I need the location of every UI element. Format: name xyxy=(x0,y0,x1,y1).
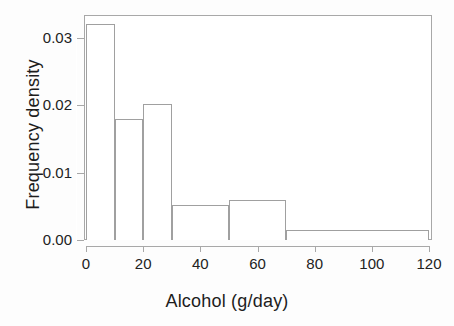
x-tick-label: 20 xyxy=(118,255,168,272)
x-tick xyxy=(429,246,430,252)
y-tick xyxy=(77,173,84,174)
histogram-bar xyxy=(143,104,172,240)
x-axis-title: Alcohol (g/day) xyxy=(0,291,454,312)
x-tick xyxy=(372,246,373,252)
x-tick xyxy=(200,246,201,252)
y-tick-label: 0.00 xyxy=(43,232,72,247)
histogram-bar xyxy=(115,119,144,241)
histogram-bar xyxy=(172,205,229,240)
y-axis-line xyxy=(76,38,77,241)
y-tick xyxy=(77,38,84,39)
y-tick-label: 0.02 xyxy=(43,97,72,112)
x-tick xyxy=(86,246,87,252)
y-tick-label: 0.03 xyxy=(43,30,72,45)
histogram-bar xyxy=(286,230,429,240)
y-tick xyxy=(77,105,84,106)
x-tick xyxy=(315,246,316,252)
x-tick xyxy=(143,246,144,252)
histogram-bars xyxy=(84,15,432,240)
x-tick xyxy=(258,246,259,252)
x-tick-label: 120 xyxy=(404,255,454,272)
y-tick-label: 0.01 xyxy=(43,165,72,180)
x-tick-label: 100 xyxy=(347,255,397,272)
x-tick-label: 40 xyxy=(175,255,225,272)
y-axis-title: Frequency density xyxy=(23,40,44,230)
y-tick xyxy=(77,240,84,241)
chart-page: 020406080100120 0.000.010.020.03 Alcohol… xyxy=(0,0,454,326)
x-tick-label: 60 xyxy=(233,255,283,272)
histogram-bar xyxy=(229,200,286,241)
x-tick-label: 80 xyxy=(290,255,340,272)
histogram-bar xyxy=(86,24,115,240)
